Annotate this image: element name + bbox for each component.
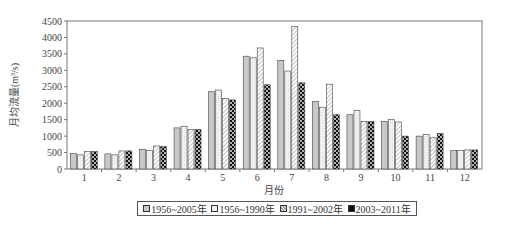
bar (188, 130, 194, 169)
y-tick-label: 4000 (42, 32, 62, 43)
bar (465, 150, 471, 169)
y-tick-label: 0 (57, 164, 62, 175)
y-axis: 050010001500200025003000350040004500 (42, 16, 67, 175)
bar (382, 121, 388, 169)
bar (458, 151, 464, 169)
legend-swatch-icon (280, 205, 287, 212)
bar (139, 149, 145, 169)
bar (112, 155, 118, 169)
bar (195, 130, 201, 169)
bar (146, 151, 152, 169)
bar (403, 136, 409, 169)
bar (119, 151, 125, 169)
x-tick-label: 5 (220, 172, 225, 183)
x-tick-label: 2 (116, 172, 121, 183)
x-tick-label: 6 (255, 172, 260, 183)
legend-item: 1956~1990年 (211, 201, 274, 216)
y-tick-label: 500 (47, 147, 62, 158)
bar (105, 154, 111, 169)
legend-label: 1991~2002年 (288, 201, 343, 216)
bar (347, 115, 353, 169)
bar (70, 154, 76, 169)
bar (361, 121, 367, 169)
bar (230, 100, 236, 169)
bar (423, 134, 429, 169)
x-tick-label: 12 (460, 172, 470, 183)
bar (278, 60, 284, 169)
y-tick-label: 3500 (42, 48, 62, 59)
bar (250, 58, 256, 169)
x-tick-label: 8 (324, 172, 329, 183)
bar (396, 122, 402, 169)
x-tick-label: 4 (186, 172, 191, 183)
bar (312, 102, 318, 169)
bar (430, 138, 436, 169)
bar (292, 27, 298, 169)
y-tick-label: 1500 (42, 114, 62, 125)
legend-item: 1956~2005年 (143, 201, 206, 216)
bar (77, 155, 83, 169)
legend-swatch-icon (143, 205, 150, 212)
legend-swatch-icon (348, 205, 355, 212)
bar (181, 126, 187, 169)
legend-label: 1956~2005年 (151, 201, 206, 216)
bar (333, 115, 339, 169)
bar (354, 110, 360, 169)
bar (437, 133, 443, 169)
bar (153, 146, 159, 169)
bar (299, 83, 305, 169)
bar (326, 84, 332, 169)
bar (264, 85, 270, 169)
bar (472, 150, 478, 169)
bar (319, 107, 325, 169)
bar (389, 120, 395, 169)
y-tick-label: 3000 (42, 65, 62, 76)
bar (126, 151, 132, 169)
bar (91, 152, 97, 169)
y-tick-label: 2500 (42, 81, 62, 92)
bar (416, 136, 422, 169)
bar-chart: 050010001500200025003000350040004500 123… (0, 0, 509, 200)
x-tick-label: 7 (289, 172, 294, 183)
bar (368, 121, 374, 169)
bar (84, 152, 90, 169)
bar (243, 56, 249, 169)
bar (216, 90, 222, 169)
legend-label: 1956~1990年 (219, 201, 274, 216)
x-axis: 123456789101112 (82, 169, 470, 183)
x-tick-label: 3 (151, 172, 156, 183)
bar (451, 151, 457, 169)
y-tick-label: 2000 (42, 98, 62, 109)
x-axis-label: 月份 (264, 185, 284, 196)
bar (174, 128, 180, 169)
legend-item: 2003~2011年 (348, 201, 411, 216)
y-axis-label: 月均流量(m³/s) (8, 63, 21, 127)
legend-item: 1991~2002年 (280, 201, 343, 216)
x-tick-label: 1 (82, 172, 87, 183)
chart-legend: 1956~2005年1956~1990年1991~2002年2003~2011年 (137, 201, 417, 216)
legend-label: 2003~2011年 (356, 201, 411, 216)
bar (209, 92, 215, 169)
x-tick-label: 10 (391, 172, 401, 183)
bar (160, 147, 166, 169)
bar (257, 48, 263, 169)
plot-area (67, 21, 482, 169)
y-tick-label: 1000 (42, 131, 62, 142)
bar (285, 71, 291, 169)
x-tick-label: 11 (425, 172, 435, 183)
bar (223, 98, 229, 169)
y-tick-label: 4500 (42, 16, 62, 27)
x-tick-label: 9 (358, 172, 363, 183)
legend-swatch-icon (211, 205, 218, 212)
